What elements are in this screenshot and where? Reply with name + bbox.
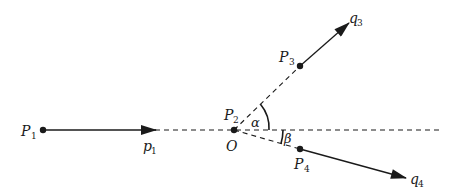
dashed-line-o-p3	[234, 66, 300, 130]
svg-text:1: 1	[151, 146, 157, 156]
svg-text:β: β	[283, 131, 292, 146]
point-p1	[40, 127, 46, 133]
point-o	[231, 127, 237, 133]
svg-text:O: O	[226, 138, 238, 154]
label-P1: P 1	[20, 123, 37, 141]
svg-text:P: P	[293, 156, 304, 172]
label-beta: β	[283, 131, 292, 146]
svg-text:P: P	[20, 123, 31, 139]
label-alpha: α	[251, 115, 260, 130]
svg-text:2: 2	[233, 115, 239, 125]
svg-text:P: P	[278, 49, 289, 65]
svg-text:1: 1	[31, 131, 37, 141]
label-P2: P 2	[223, 107, 239, 125]
vector-q3	[300, 23, 349, 66]
svg-text:4: 4	[418, 179, 424, 189]
label-O: O	[226, 138, 238, 154]
angle-arc-beta	[281, 130, 283, 144]
label-p1: p 1	[143, 138, 157, 156]
label-P3: P 3	[278, 49, 295, 67]
svg-text:3: 3	[357, 18, 363, 28]
label-q3: q 3	[349, 10, 363, 28]
svg-text:α: α	[251, 115, 260, 130]
point-p3	[297, 63, 303, 69]
point-p4	[297, 146, 303, 152]
collision-diagram: P 1 p 1 P 2 O α β P 3 q 3 P 4 q 4	[0, 0, 451, 194]
angle-arc-alpha	[261, 104, 270, 130]
vector-q4	[300, 149, 406, 178]
label-q4: q 4	[410, 171, 424, 189]
svg-text:3: 3	[289, 57, 295, 67]
svg-text:4: 4	[304, 164, 310, 174]
label-P4: P 4	[293, 156, 310, 174]
